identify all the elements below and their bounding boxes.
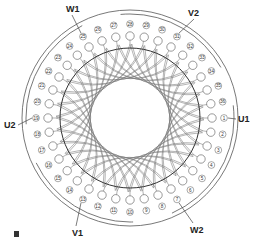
slot-19: 19 <box>33 114 56 122</box>
slot-number: 35 <box>216 83 222 88</box>
stator-winding-diagram: 1234567891011121314151617181920212223242… <box>0 0 260 238</box>
slot-number: 31 <box>174 34 180 39</box>
slot-8: 8 <box>154 188 166 210</box>
slot-24: 24 <box>66 43 82 62</box>
terminal-V2: V2 <box>188 8 199 18</box>
terminal-V1: V1 <box>72 228 83 238</box>
lead-U2 <box>18 118 32 125</box>
slot-number: 2 <box>221 132 224 137</box>
slot-number: 1 <box>223 116 226 121</box>
slot-number: 12 <box>95 204 101 209</box>
slot-17: 17 <box>38 142 60 154</box>
slot-15: 15 <box>55 166 74 182</box>
slot-number: 33 <box>199 55 205 60</box>
slot-36: 36 <box>203 98 226 108</box>
slot-27: 27 <box>110 22 120 45</box>
slot-number: 21 <box>39 83 45 88</box>
slot-35: 35 <box>200 83 222 95</box>
inner-connection-ring <box>60 48 200 188</box>
slot-number: 16 <box>46 163 52 168</box>
lead-V1 <box>76 203 81 226</box>
slot-32: 32 <box>178 43 194 62</box>
slot-number: 29 <box>144 23 150 28</box>
slot-21: 21 <box>38 83 60 95</box>
slot-20: 20 <box>34 98 57 108</box>
slot-16: 16 <box>45 155 66 169</box>
slot-3: 3 <box>200 142 222 154</box>
slot-number: 15 <box>55 176 61 181</box>
slot-10: 10 <box>126 192 134 215</box>
slot-number: 22 <box>46 69 52 74</box>
coil-end-windings <box>56 44 204 192</box>
slot-number: 36 <box>220 99 226 104</box>
slot-12: 12 <box>95 188 107 210</box>
slot-30: 30 <box>154 26 166 48</box>
slot-6: 6 <box>178 175 194 194</box>
slot-number: 3 <box>217 148 220 153</box>
slot-number: 4 <box>210 163 213 168</box>
slot-number: 26 <box>95 27 101 32</box>
terminal-U2: U2 <box>4 120 16 130</box>
slot-11: 11 <box>110 191 120 214</box>
slot-number: 6 <box>189 188 192 193</box>
slot-number: 34 <box>209 69 215 74</box>
slot-26: 26 <box>95 26 107 48</box>
slot-number: 9 <box>145 208 148 213</box>
slot-33: 33 <box>187 54 206 70</box>
slot-number: 30 <box>160 27 166 32</box>
slot-number: 32 <box>188 44 194 49</box>
slot-34: 34 <box>194 68 215 82</box>
slot-number: 23 <box>55 55 61 60</box>
slot-29: 29 <box>140 22 150 45</box>
slot-7: 7 <box>167 182 181 203</box>
slot-28: 28 <box>126 21 134 44</box>
slot-number: 28 <box>127 22 133 27</box>
terminal-U1: U1 <box>238 114 250 124</box>
slot-5: 5 <box>187 166 206 182</box>
slot-13: 13 <box>80 182 94 203</box>
slot-number: 24 <box>67 44 73 49</box>
slot-number: 14 <box>67 188 73 193</box>
slot-9: 9 <box>140 191 150 214</box>
slot-number: 7 <box>176 197 179 202</box>
slot-number: 11 <box>111 208 116 213</box>
slot-number: 27 <box>111 23 117 28</box>
slot-number: 13 <box>80 197 86 202</box>
small-square-marker <box>14 231 19 237</box>
slot-18: 18 <box>34 128 57 138</box>
slot-number: 17 <box>39 148 45 153</box>
slot-14: 14 <box>66 175 82 194</box>
slot-number: 8 <box>161 204 164 209</box>
slot-number: 25 <box>80 34 86 39</box>
slot-number: 10 <box>127 210 133 215</box>
terminal-W1: W1 <box>66 4 80 14</box>
slot-2: 2 <box>203 128 226 138</box>
slot-number: 20 <box>35 99 41 104</box>
slot-22: 22 <box>45 68 66 82</box>
slot-31: 31 <box>167 33 181 54</box>
terminal-W2: W2 <box>190 225 204 235</box>
slot-23: 23 <box>55 54 74 70</box>
slot-number: 5 <box>201 176 204 181</box>
lead-U1 <box>228 118 236 119</box>
slot-number: 19 <box>33 116 39 121</box>
slot-4: 4 <box>194 155 215 169</box>
slot-1: 1 <box>204 114 227 122</box>
slot-25: 25 <box>80 33 94 54</box>
slot-number: 18 <box>35 132 41 137</box>
